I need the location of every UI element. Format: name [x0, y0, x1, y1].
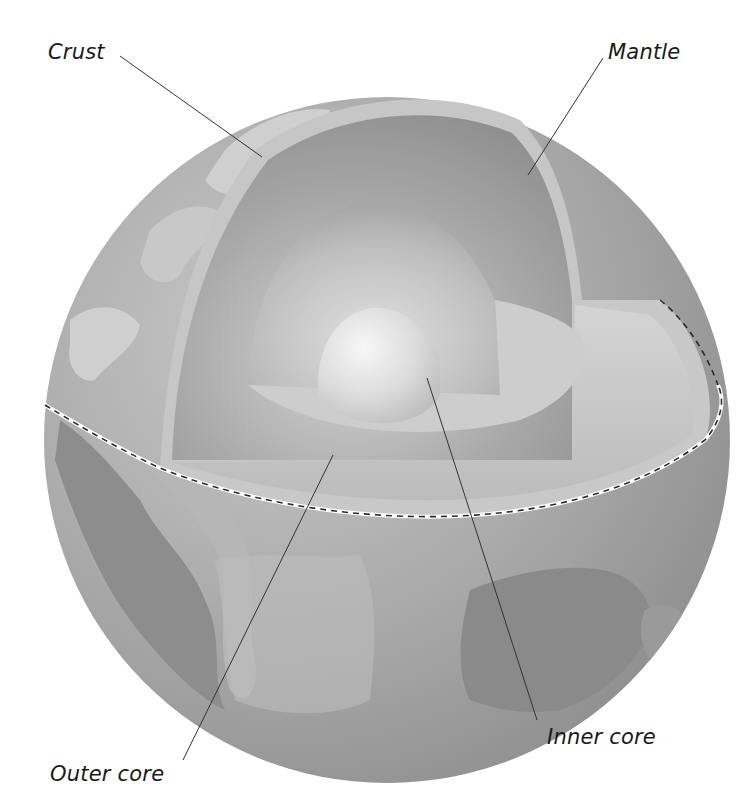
earth-cutaway-illustration	[0, 0, 739, 793]
crust-label: Crust	[48, 40, 105, 64]
outer-core-label: Outer core	[50, 762, 164, 786]
mantle-label: Mantle	[608, 40, 681, 64]
crust-leader-line	[120, 56, 262, 157]
earth-layers-diagram: Crust Mantle Inner core Outer core	[0, 0, 739, 793]
inner-core-label: Inner core	[547, 725, 656, 749]
